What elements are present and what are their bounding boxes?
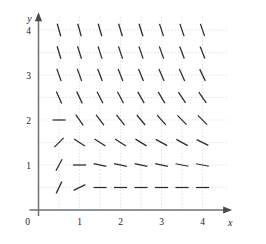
slope-segment: [178, 92, 185, 103]
x-axis-arrowhead: [223, 206, 232, 213]
y-tick-label-3: 3: [26, 71, 31, 81]
x-tick-label-4: 4: [200, 217, 205, 227]
gridlines: [39, 17, 228, 211]
origin-label: 0: [25, 217, 30, 227]
y-tick-label-2: 2: [26, 116, 31, 126]
y-axis-label: y: [26, 13, 32, 24]
y-axis-arrowhead: [35, 12, 42, 21]
y-tick-label-4: 4: [26, 26, 31, 36]
y-tick-label-1: 1: [26, 161, 31, 171]
slope-field-figure: 123412340xy: [0, 0, 266, 244]
x-tick-label-3: 3: [159, 217, 164, 227]
slope-segment: [158, 92, 165, 103]
slope-segments: [53, 24, 210, 194]
x-axis-label: x: [227, 217, 233, 228]
slope-field-canvas: 123412340xy: [0, 0, 266, 244]
x-tick-label-2: 2: [118, 217, 123, 227]
slope-segment: [138, 92, 144, 103]
x-tick-label-1: 1: [77, 217, 82, 227]
